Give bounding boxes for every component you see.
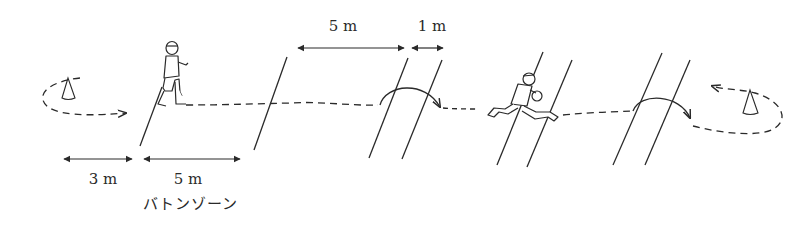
running-path-segment-3	[563, 111, 631, 115]
bottom-lead-length-label: 3 m	[89, 170, 118, 188]
running-path-left-loop	[43, 78, 126, 115]
zone-line-4	[402, 60, 442, 159]
bottom-zone-length-label: 5 m	[174, 170, 203, 188]
handoff-arc-1	[380, 88, 440, 107]
handoff-arc-2	[633, 98, 690, 118]
running-path-right-loop	[693, 86, 782, 134]
zone-line-1	[140, 87, 162, 146]
relay-baton-zone-diagram	[0, 0, 807, 225]
zone-line-7	[613, 53, 662, 165]
zone-line-3	[369, 58, 408, 158]
top-zone-length-label: 5 m	[329, 17, 358, 35]
running-path-segment-2	[443, 108, 478, 109]
runner-sprinting-icon	[488, 73, 558, 121]
baton-zone-label: バトンゾーン	[143, 192, 238, 213]
top-gap-length-label: 1 m	[418, 17, 447, 35]
running-path-segment-1	[186, 103, 378, 106]
runner-standing-icon	[158, 42, 188, 107]
